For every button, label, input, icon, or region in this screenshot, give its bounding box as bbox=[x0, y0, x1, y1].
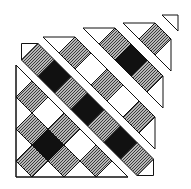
quilt-canvas bbox=[0, 0, 191, 189]
